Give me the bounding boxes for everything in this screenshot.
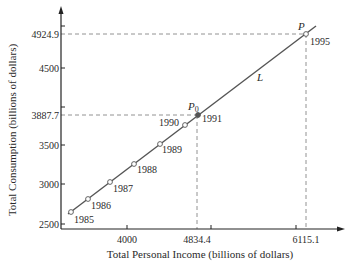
point-1985 (69, 210, 74, 215)
y-tick-3887: 3887.7 (32, 110, 60, 121)
annotation-p: P (297, 20, 305, 32)
x-axis-label: Total Personal Income (billions of dolla… (107, 248, 294, 261)
point-1995 (304, 32, 309, 37)
x-tick-4000: 4000 (117, 234, 137, 245)
label-1987: 1987 (113, 183, 133, 194)
label-1995: 1995 (310, 36, 330, 47)
regression-line (68, 26, 316, 214)
point-1986 (86, 197, 91, 202)
y-tick-3500: 3500 (39, 140, 59, 151)
y-tick-4500: 4500 (39, 63, 59, 74)
label-1985: 1985 (74, 214, 94, 225)
label-1991: 1991 (202, 113, 222, 124)
y-axis-label: Total Consumption (billions of dollars) (6, 44, 19, 217)
annotation-l: L (256, 71, 263, 83)
label-1989: 1989 (162, 144, 182, 155)
point-1988 (132, 162, 137, 167)
point-1990 (183, 123, 188, 128)
y-tick-3000: 3000 (39, 179, 59, 190)
label-1990: 1990 (159, 117, 179, 128)
y-tick-4924: 4924.9 (32, 29, 60, 40)
label-1988: 1988 (137, 164, 157, 175)
annotation-p0: P0 (187, 100, 199, 114)
x-tick-4834: 4834.4 (183, 234, 211, 245)
y-tick-2500: 2500 (39, 219, 59, 230)
label-1986: 1986 (91, 200, 111, 211)
chart-canvas: 4924.9 4500 3887.7 3500 3000 2500 4000 4… (0, 0, 352, 269)
y-axis-arrow-icon (59, 6, 64, 14)
axes (61, 10, 340, 229)
point-1987 (108, 180, 113, 185)
x-tick-6115: 6115.1 (292, 234, 319, 245)
x-axis-arrow-icon (337, 227, 345, 232)
